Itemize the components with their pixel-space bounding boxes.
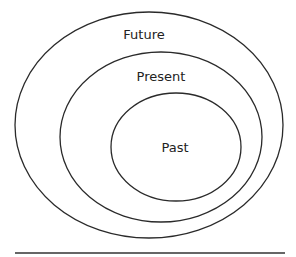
nested-ellipse-diagram: Future Present Past — [0, 0, 296, 257]
future-ellipse — [15, 12, 283, 238]
future-label: Future — [123, 27, 164, 42]
diagram-canvas: Future Present Past — [0, 0, 296, 257]
past-label: Past — [161, 140, 188, 155]
present-label: Present — [137, 69, 186, 84]
